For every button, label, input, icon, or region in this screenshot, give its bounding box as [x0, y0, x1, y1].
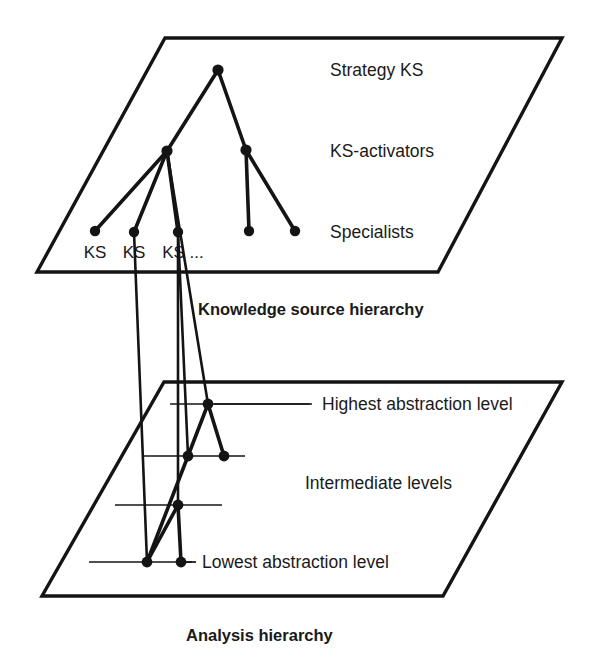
level-label-highest: Highest abstraction level	[322, 394, 513, 414]
edge-strategy-act1	[167, 70, 218, 151]
node-intermediate-1	[183, 451, 194, 462]
edge-act2-spec5	[246, 150, 295, 231]
knowledge-source-edges	[95, 70, 295, 232]
analysis-plane-group: Highest abstraction level Intermediate l…	[42, 382, 562, 644]
analysis-level-labels: Highest abstraction level Intermediate l…	[202, 394, 513, 572]
node-specialist-4	[244, 226, 254, 236]
cross-link-ks2-to-lowest	[134, 232, 147, 562]
edge-act1-spec2	[134, 151, 167, 232]
caption-knowledge-source-hierarchy: Knowledge source hierarchy	[198, 300, 424, 318]
edge-high-mid2	[208, 404, 224, 456]
node-intermediate-3	[173, 500, 184, 511]
edge-high-mid1	[188, 404, 208, 456]
level-label-intermediate: Intermediate levels	[305, 473, 452, 493]
edge-act1-spec1	[95, 151, 167, 231]
row-label-specialists: Specialists	[330, 222, 414, 242]
level-label-lowest: Lowest abstraction level	[202, 552, 389, 572]
node-strategy-ks	[212, 64, 223, 75]
node-ks-activator-2	[240, 144, 251, 155]
knowledge-source-row-labels: Strategy KS KS-activators Specialists	[330, 60, 434, 242]
caption-analysis-hierarchy: Analysis hierarchy	[186, 626, 334, 644]
leaf-label-ks-1: KS	[84, 243, 107, 262]
cross-link-activator-to-highest	[167, 151, 208, 404]
knowledge-source-nodes	[90, 64, 300, 237]
hierarchy-diagram: KS KS KS ... Strategy KS KS-activators S…	[0, 0, 594, 668]
edge-strategy-act2	[218, 70, 246, 150]
node-lowest-1	[142, 557, 153, 568]
knowledge-source-plane-group: KS KS KS ... Strategy KS KS-activators S…	[37, 38, 562, 318]
row-label-ks-activators: KS-activators	[330, 141, 434, 161]
diagram-root: KS KS KS ... Strategy KS KS-activators S…	[0, 0, 594, 668]
row-label-strategy-ks: Strategy KS	[330, 60, 423, 80]
node-intermediate-2	[219, 451, 230, 462]
edge-mid3-low2	[178, 505, 181, 562]
edge-act2-spec4	[246, 150, 249, 231]
node-specialist-1	[90, 226, 100, 236]
knowledge-source-plane-outline	[37, 38, 562, 272]
node-specialist-5	[290, 226, 300, 236]
node-highest-abstraction	[203, 399, 214, 410]
